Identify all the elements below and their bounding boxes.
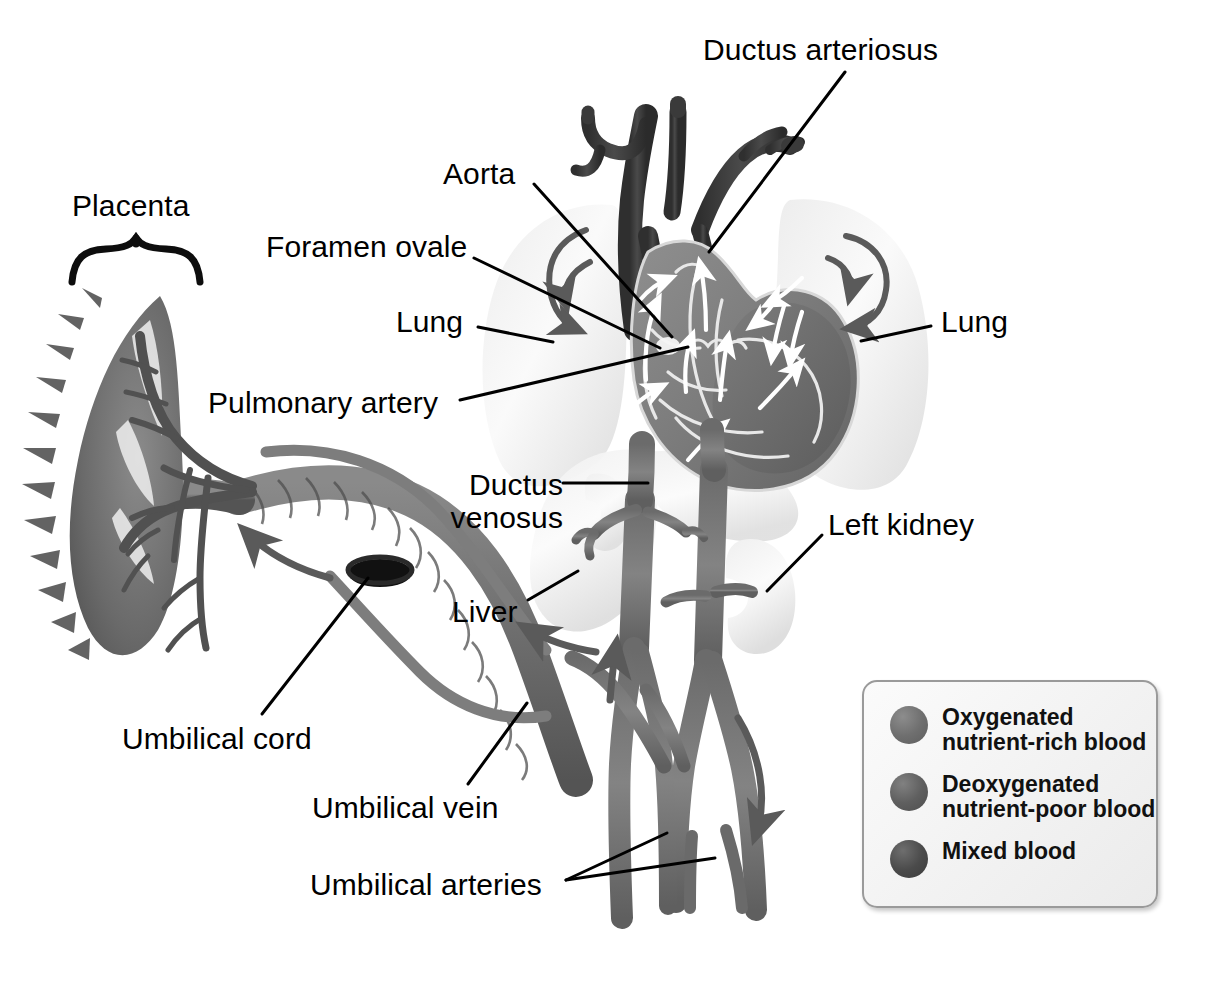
blood-type-legend: Oxygenated nutrient-rich blood Deoxygena… — [862, 680, 1158, 908]
label-pulmonary-artery: Pulmonary artery — [208, 386, 438, 419]
legend-item-deoxygenated: Deoxygenated nutrient-poor blood — [890, 771, 1156, 822]
label-ductus-venosus: Ductus venosus — [424, 468, 563, 534]
legend-label-oxygenated: Oxygenated nutrient-rich blood — [942, 704, 1146, 755]
leader-umbilical-cord — [262, 578, 368, 714]
label-ductus-arteriosus: Ductus arteriosus — [703, 33, 938, 66]
label-foramen-ovale: Foramen ovale — [266, 230, 467, 263]
legend-item-mixed: Mixed blood — [890, 838, 1156, 878]
fetal-circulation-figure: Ductus arteriosus Aorta Placenta Foramen… — [0, 0, 1216, 993]
mixed-blood-swatch-icon — [890, 840, 928, 878]
label-lung-left: Lung — [396, 305, 463, 338]
label-umbilical-cord: Umbilical cord — [122, 722, 312, 755]
label-lung-right: Lung — [941, 305, 1008, 338]
label-aorta: Aorta — [443, 157, 515, 190]
oxygenated-blood-swatch-icon — [890, 706, 928, 744]
legend-item-oxygenated: Oxygenated nutrient-rich blood — [890, 704, 1156, 755]
label-placenta: Placenta — [72, 189, 190, 222]
iliac-branches — [690, 830, 742, 908]
legend-label-mixed: Mixed blood — [942, 838, 1076, 864]
deoxygenated-blood-swatch-icon — [890, 773, 928, 811]
legend-label-deoxygenated: Deoxygenated nutrient-poor blood — [942, 771, 1155, 822]
label-umbilical-vein: Umbilical vein — [312, 791, 498, 824]
placenta-shape — [22, 288, 252, 660]
label-liver: Liver — [452, 595, 518, 628]
kidney-left-shape — [726, 539, 796, 654]
label-umbilical-arteries: Umbilical arteries — [310, 868, 542, 901]
placenta-brace — [72, 238, 200, 282]
lung-left-shape — [483, 204, 627, 486]
label-left-kidney: Left kidney — [828, 508, 974, 541]
